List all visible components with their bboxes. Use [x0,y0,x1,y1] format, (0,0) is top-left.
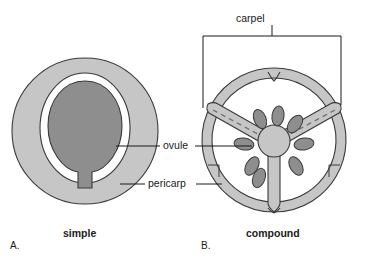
label-ovule: ovule [163,140,188,151]
compound-placenta [258,125,290,157]
panel-a-simple-ovary [12,58,158,204]
label-carpel: carpel [236,13,265,24]
caption-compound: compound [246,228,300,239]
panel-label-a: A. [10,241,19,251]
caption-simple: simple [63,228,96,239]
label-pericarp: pericarp [148,178,186,189]
panel-label-b: B. [201,241,210,251]
carpel-figure [0,0,371,259]
